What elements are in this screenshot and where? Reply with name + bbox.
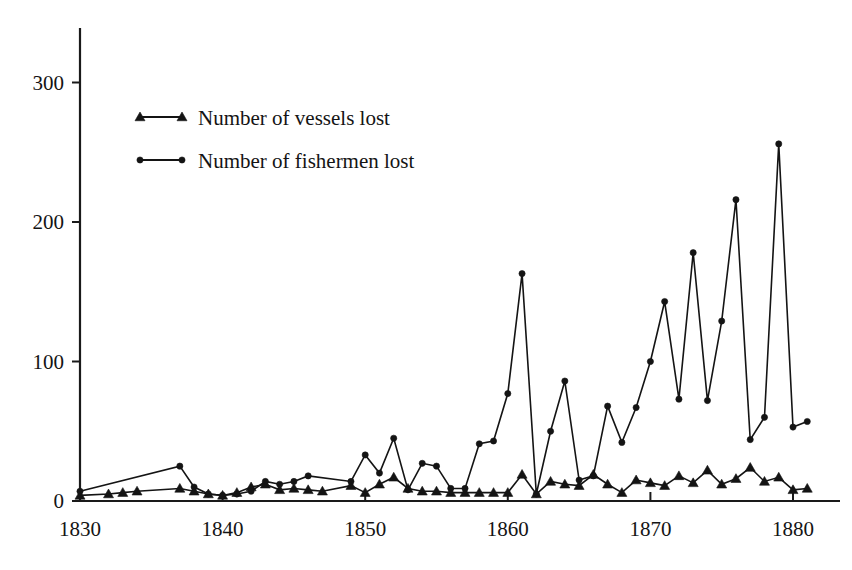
data-point-circle: [177, 463, 183, 469]
x-tick-label: 1860: [487, 517, 529, 541]
x-tick-label: 1840: [202, 517, 244, 541]
legend-item-fishermen-lost[interactable]: Number of fishermen lost: [137, 149, 415, 173]
data-point-triangle: [631, 475, 641, 484]
legend-item-vessels-lost[interactable]: Number of vessels lost: [135, 106, 390, 130]
x-tick-group: 183018401850186018701880: [59, 492, 814, 541]
y-tick-label: 200: [33, 210, 65, 234]
x-tick-label: 1870: [629, 517, 671, 541]
data-point-circle: [719, 318, 725, 324]
data-point-circle: [704, 397, 710, 403]
y-tick-label: 0: [54, 489, 65, 513]
data-point-circle: [761, 414, 767, 420]
data-point-circle: [519, 271, 525, 277]
data-point-triangle: [603, 479, 613, 488]
data-point-circle: [262, 478, 268, 484]
data-point-triangle: [674, 471, 684, 480]
data-point-triangle: [745, 463, 755, 472]
x-axis: 183018401850186018701880: [59, 492, 840, 541]
data-point-circle: [619, 439, 625, 445]
line-chart: 0100200300 183018401850186018701880 Numb…: [0, 0, 852, 570]
data-point-circle: [448, 485, 454, 491]
data-point-circle: [179, 157, 185, 163]
data-point-circle: [576, 477, 582, 483]
data-point-circle: [776, 141, 782, 147]
data-point-circle: [462, 485, 468, 491]
data-point-circle: [690, 250, 696, 256]
y-tick-label: 300: [33, 71, 65, 95]
data-point-circle: [790, 424, 796, 430]
data-point-triangle: [546, 476, 556, 485]
data-point-triangle: [702, 465, 712, 474]
data-point-circle: [590, 473, 596, 479]
data-point-circle: [490, 438, 496, 444]
data-point-circle: [405, 487, 411, 493]
data-point-circle: [376, 470, 382, 476]
data-point-circle: [747, 437, 753, 443]
data-point-circle: [291, 478, 297, 484]
data-point-circle: [433, 463, 439, 469]
data-point-circle: [633, 404, 639, 410]
data-point-circle: [305, 473, 311, 479]
x-tick-label: 1880: [772, 517, 814, 541]
y-tick-label: 100: [33, 350, 65, 374]
series-vessels-lost: [75, 463, 812, 500]
x-tick-label: 1850: [344, 517, 386, 541]
series-line: [80, 468, 807, 496]
y-axis: 0100200300: [33, 28, 81, 513]
data-point-circle: [476, 441, 482, 447]
legend-label: Number of fishermen lost: [198, 149, 415, 173]
data-point-circle: [419, 460, 425, 466]
data-point-circle: [348, 478, 354, 484]
data-point-triangle: [360, 488, 370, 497]
chart-container: 0100200300 183018401850186018701880 Numb…: [0, 0, 852, 570]
data-point-circle: [605, 403, 611, 409]
chart-legend: Number of vessels lostNumber of fisherme…: [135, 106, 415, 173]
data-point-circle: [662, 298, 668, 304]
data-point-circle: [804, 418, 810, 424]
data-point-circle: [137, 157, 143, 163]
data-point-circle: [220, 492, 226, 498]
data-point-triangle: [802, 483, 812, 492]
data-point-triangle: [389, 472, 399, 481]
data-point-triangle: [774, 472, 784, 481]
data-point-circle: [234, 491, 240, 497]
data-point-circle: [248, 488, 254, 494]
data-point-circle: [505, 390, 511, 396]
x-tick-label: 1830: [59, 517, 101, 541]
data-point-circle: [547, 428, 553, 434]
data-point-triangle: [517, 469, 527, 478]
data-point-triangle: [374, 479, 384, 488]
y-tick-group: 0100200300: [33, 71, 81, 514]
data-point-circle: [647, 358, 653, 364]
data-point-circle: [205, 491, 211, 497]
data-point-triangle: [175, 483, 185, 492]
data-point-circle: [533, 491, 539, 497]
legend-label: Number of vessels lost: [198, 106, 390, 130]
data-point-circle: [562, 378, 568, 384]
data-point-circle: [362, 452, 368, 458]
series-fishermen-lost: [77, 141, 810, 499]
data-point-circle: [676, 396, 682, 402]
data-point-circle: [77, 488, 83, 494]
data-point-circle: [277, 481, 283, 487]
data-point-circle: [191, 484, 197, 490]
series-group: [75, 141, 812, 499]
series-line: [80, 144, 807, 496]
data-point-circle: [391, 435, 397, 441]
data-point-circle: [733, 197, 739, 203]
